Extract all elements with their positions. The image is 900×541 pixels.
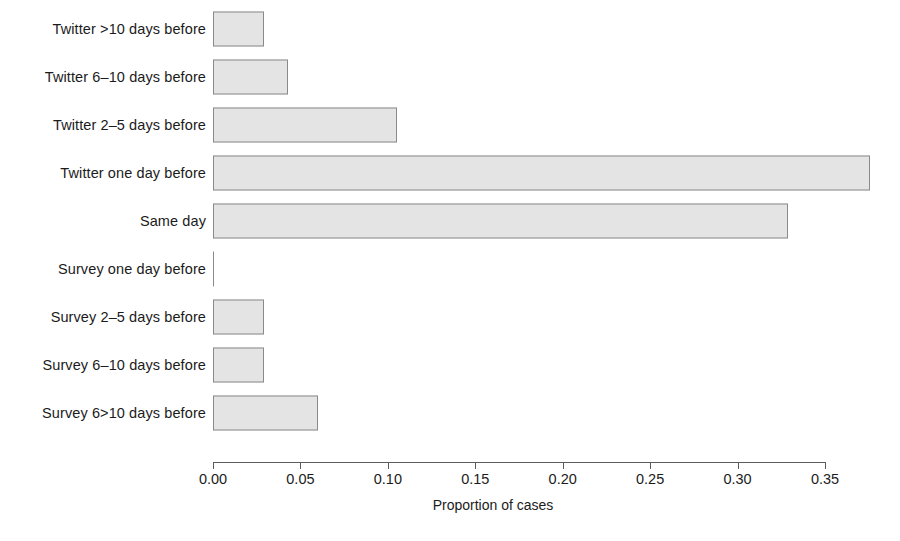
x-axis-tick xyxy=(825,462,826,469)
category-label: Survey one day before xyxy=(58,261,206,277)
bar-twitter-2-5-days xyxy=(213,108,397,143)
x-axis-tick xyxy=(738,462,739,469)
x-axis-tick-label: 0.15 xyxy=(461,471,489,487)
x-axis-tick xyxy=(300,462,301,469)
bar-row: Survey 2–5 days before xyxy=(0,293,900,341)
bar-twitter-one-day xyxy=(213,156,870,191)
bar-row: Twitter one day before xyxy=(0,149,900,197)
bar-same-day xyxy=(213,204,788,239)
category-label: Survey 6>10 days before xyxy=(42,405,206,421)
x-axis-tick xyxy=(563,462,564,469)
bar-chart: Twitter >10 days before Twitter 6–10 day… xyxy=(0,0,900,541)
bar-row: Twitter 6–10 days before xyxy=(0,53,900,101)
bar-row: Same day xyxy=(0,197,900,245)
x-axis-line xyxy=(213,462,825,463)
x-axis-tick-label: 0.25 xyxy=(636,471,664,487)
bar-twitter-6-10-days xyxy=(213,60,288,95)
x-axis-tick-label: 0.20 xyxy=(549,471,577,487)
bar-row: Survey 6>10 days before xyxy=(0,389,900,437)
x-axis-tick-label: 0.10 xyxy=(374,471,402,487)
bar-row: Survey one day before xyxy=(0,245,900,293)
category-label: Survey 6–10 days before xyxy=(42,357,206,373)
category-label: Twitter one day before xyxy=(60,165,206,181)
x-axis-tick xyxy=(650,462,651,469)
x-axis-tick xyxy=(213,462,214,469)
bar-survey-6-gt10-days xyxy=(213,396,318,431)
x-axis-tick-label: 0.00 xyxy=(199,471,227,487)
category-label: Same day xyxy=(140,213,206,229)
x-axis-title-text: Proportion of cases xyxy=(433,497,554,513)
category-label: Survey 2–5 days before xyxy=(51,309,206,325)
x-axis-tick-label: 0.35 xyxy=(811,471,839,487)
bar-twitter-gt10-days xyxy=(213,12,264,47)
category-label: Twitter 6–10 days before xyxy=(45,69,206,85)
bar-survey-one-day xyxy=(213,252,214,287)
bar-row: Survey 6–10 days before xyxy=(0,341,900,389)
x-axis-tick xyxy=(475,462,476,469)
bar-survey-2-5-days xyxy=(213,300,264,335)
x-axis-title: Proportion of cases xyxy=(0,497,900,513)
category-label: Twitter 2–5 days before xyxy=(53,117,206,133)
x-axis-tick-label: 0.05 xyxy=(286,471,314,487)
x-axis-tick xyxy=(388,462,389,469)
bar-row: Twitter 2–5 days before xyxy=(0,101,900,149)
bar-survey-6-10-days xyxy=(213,348,264,383)
plot-area: Twitter >10 days before Twitter 6–10 day… xyxy=(0,0,900,541)
category-label: Twitter >10 days before xyxy=(53,21,206,37)
x-axis-tick-label: 0.30 xyxy=(723,471,751,487)
bar-row: Twitter >10 days before xyxy=(0,5,900,53)
